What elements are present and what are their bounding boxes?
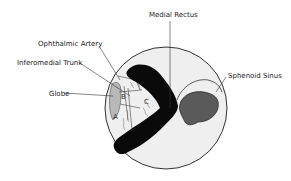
- label-ophthalmic-artery: Ophthalmic Artery: [38, 40, 102, 48]
- label-medial-rectus: Medial Rectus: [149, 11, 198, 19]
- leader-globe: [64, 93, 113, 96]
- region-letter-c: C: [144, 98, 149, 106]
- region-letter-b: B: [121, 93, 126, 101]
- label-globe: Globe: [49, 90, 69, 98]
- orbit-diagram: A B C Medial Rectus Ophthalmic Artery In…: [0, 0, 291, 181]
- label-inferomedial-trunk: Inferomedial Trunk: [17, 59, 82, 67]
- label-sphenoid-sinus: Sphenoid Sinus: [228, 72, 282, 80]
- leader-ophthalmic-artery: [99, 46, 120, 80]
- region-letter-a: A: [113, 113, 118, 121]
